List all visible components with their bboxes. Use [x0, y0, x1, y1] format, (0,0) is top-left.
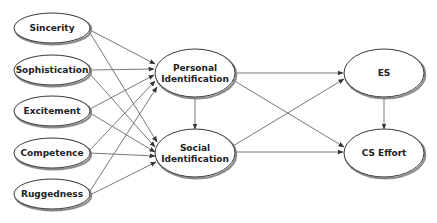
edges-layer	[90, 30, 384, 195]
edge-sincerity-to-personal-identification	[90, 30, 155, 64]
edge-competence-to-social-identification	[90, 153, 155, 156]
node-label: Excitement	[24, 106, 82, 116]
node-personal-identification: PersonalIdentification	[155, 49, 236, 98]
edge-sophistication-to-social-identification	[90, 74, 155, 147]
edge-sophistication-to-personal-identification	[90, 69, 154, 70]
node-ruggedness: Ruggedness	[14, 179, 91, 210]
node-label: CS Effort	[362, 148, 407, 158]
node-label: Competence	[21, 148, 84, 158]
node-excitement: Excitement	[14, 96, 91, 127]
edge-social-identification-to-es	[233, 79, 344, 146]
node-cs-effort: CS Effort	[344, 129, 425, 178]
edge-excitement-to-social-identification	[90, 113, 155, 152]
edge-sincerity-to-social-identification	[90, 33, 157, 142]
node-social-identification: SocialIdentification	[155, 129, 236, 178]
edge-ruggedness-to-social-identification	[90, 162, 156, 195]
node-es: ES	[344, 49, 425, 98]
node-label: Ruggedness	[21, 189, 83, 199]
path-model-diagram: SinceritySophisticationExcitementCompete…	[0, 0, 437, 223]
node-label: Personal	[173, 63, 217, 73]
edge-personal-identification-to-cs-effort	[233, 80, 344, 147]
node-label: Sophistication	[16, 65, 89, 75]
node-label: ES	[378, 68, 391, 78]
node-label: Identification	[161, 154, 229, 164]
nodes-layer: SinceritySophisticationExcitementCompete…	[14, 13, 425, 210]
node-sophistication: Sophistication	[14, 55, 91, 86]
node-sincerity: Sincerity	[14, 13, 91, 44]
node-label: Identification	[161, 74, 229, 84]
node-label: Sincerity	[29, 23, 74, 33]
node-label: Social	[180, 143, 210, 153]
node-competence: Competence	[14, 138, 91, 169]
